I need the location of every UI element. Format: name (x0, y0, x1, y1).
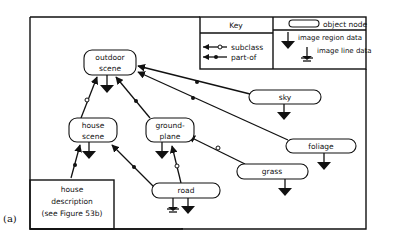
edge-house-scene-subclass-outdoor (81, 77, 97, 118)
part-of-key-label: part-of (231, 53, 257, 62)
node-ground-plane: ground- plane (146, 118, 194, 159)
node-sky: sky (249, 90, 321, 120)
edge-house-desc-partof-house-scene (71, 145, 80, 178)
svg-text:description: description (51, 197, 93, 206)
object-node-key-label: object node (323, 20, 368, 29)
subclass-key-label: subclass (231, 43, 263, 52)
node-grass: grass (237, 164, 308, 196)
image-line-key-label: image line data (317, 47, 372, 55)
figure-caption: (a) (3, 213, 17, 224)
image-region-icon (317, 162, 331, 170)
object-node-key-icon (289, 20, 319, 27)
subclass-key-arrow-icon (203, 44, 209, 50)
semantic-network-diagram: Key object node subclass part-of image r… (0, 0, 401, 236)
svg-text:house: house (82, 121, 105, 130)
part-of-key-dot-icon (214, 55, 218, 59)
part-of-key-arrow-icon (203, 54, 209, 60)
edge-ground-plane-partof-outdoor (116, 77, 150, 118)
svg-text:ground-: ground- (155, 121, 185, 130)
svg-text:scene: scene (99, 64, 121, 73)
image-region-icon (155, 151, 169, 159)
svg-text:grass: grass (262, 167, 282, 176)
image-region-key-icon (281, 41, 295, 49)
image-region-icon (82, 151, 96, 159)
svg-text:scene: scene (82, 132, 104, 141)
subclass-key-circle-icon (218, 45, 222, 49)
svg-text:outdoor: outdoor (95, 53, 125, 62)
svg-text:(see Figure 53b): (see Figure 53b) (42, 209, 103, 218)
node-house-scene: house scene (69, 118, 117, 159)
key-title: Key (229, 21, 243, 30)
svg-text:road: road (178, 186, 195, 195)
image-region-key-label: image region data (298, 34, 362, 42)
node-outdoor-scene: outdoor scene (84, 50, 136, 93)
image-region-icon (278, 188, 292, 196)
legend-key: Key object node subclass part-of image r… (200, 17, 372, 69)
node-house-description: house description (see Figure 53b) (30, 180, 114, 229)
svg-text:plane: plane (160, 132, 181, 141)
image-region-icon (277, 112, 291, 120)
svg-text:foliage: foliage (308, 142, 334, 151)
node-road: road (152, 183, 220, 214)
svg-text:sky: sky (279, 93, 292, 102)
image-region-icon (181, 206, 195, 214)
svg-text:house: house (61, 185, 84, 194)
image-region-icon (100, 85, 114, 93)
